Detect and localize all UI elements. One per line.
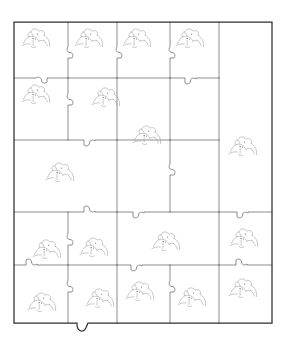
bird-head-icon <box>178 288 206 307</box>
bird-head-icon <box>230 229 258 248</box>
bird-head-icon <box>126 282 154 301</box>
cut-v-c2-r5 <box>67 265 73 323</box>
cut-row2-col2 <box>68 140 117 146</box>
cut-row1-col1 <box>14 77 68 83</box>
cut-row4-col1 <box>14 259 68 265</box>
bird-head-icon <box>229 279 257 298</box>
cut-row3-col3 <box>117 212 170 218</box>
cut-row1-col4 <box>170 78 219 84</box>
cut-row4-col3 <box>117 265 170 271</box>
bird-head-icon <box>75 29 103 48</box>
bird-head-icon <box>92 88 120 107</box>
puzzle-diagram <box>0 0 283 350</box>
bird-head-icon <box>176 29 204 48</box>
cut-row3-col2 <box>68 206 117 212</box>
puzzle-piece-group <box>14 22 272 323</box>
puzzle-outer-border <box>14 22 272 331</box>
motif-layer <box>22 29 258 312</box>
bird-head-icon <box>46 163 74 182</box>
cut-v-c4-r5 <box>169 265 175 323</box>
cut-v-c2-r1 <box>67 22 73 78</box>
cut-v-c3-r1 <box>116 22 122 78</box>
bird-head-icon <box>22 85 50 104</box>
cut-row4-col5 <box>219 259 272 265</box>
bird-head-icon <box>133 126 161 145</box>
bird-head-icon <box>33 240 61 259</box>
bird-head-icon <box>22 29 50 48</box>
bird-head-icon <box>229 137 257 156</box>
cut-v-c2-r2 <box>67 78 73 140</box>
cut-row3-col5 <box>219 212 272 218</box>
bird-head-icon <box>152 232 180 251</box>
cut-v-c4-r3 <box>169 140 175 212</box>
bird-head-icon <box>28 293 56 312</box>
puzzle-canvas <box>0 0 283 350</box>
bird-head-icon <box>86 289 114 308</box>
bird-head-icon <box>80 238 108 257</box>
cut-v-c2-r4 <box>67 212 73 265</box>
bird-head-icon <box>123 29 151 48</box>
cut-v-c4-r1 <box>169 22 175 78</box>
